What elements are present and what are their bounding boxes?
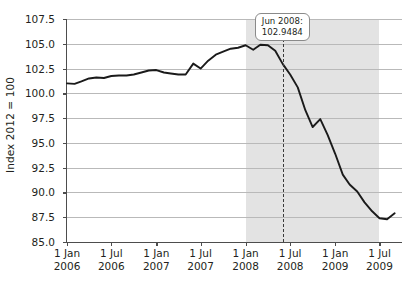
annotation-value: 102.9484 bbox=[262, 27, 303, 38]
x-axis-tick bbox=[67, 242, 68, 246]
annotation-tooltip: Jun 2008: 102.9484 bbox=[255, 13, 310, 41]
chart-container: Index 2012 = 100 107.5105.0102.5100.097.… bbox=[0, 0, 414, 295]
x-axis-tick bbox=[335, 242, 336, 246]
y-axis-tick-label: 85.0 bbox=[9, 237, 55, 247]
annotation-marker-line bbox=[283, 19, 284, 242]
plot-area: 107.5105.0102.5100.097.595.092.590.087.5… bbox=[67, 19, 402, 242]
x-axis-tick bbox=[379, 242, 380, 246]
y-axis-tick-label: 102.5 bbox=[9, 64, 55, 74]
x-axis-tick bbox=[246, 242, 247, 246]
x-axis-tick-label: 1 Jul2009 bbox=[349, 247, 409, 272]
annotation-label: Jun 2008: bbox=[262, 16, 303, 27]
x-axis-tick bbox=[156, 242, 157, 246]
y-axis-tick-label: 100.0 bbox=[9, 88, 55, 98]
y-axis-tick-label: 95.0 bbox=[9, 138, 55, 148]
x-axis-line bbox=[67, 242, 402, 243]
y-axis-tick-label: 105.0 bbox=[9, 39, 55, 49]
y-axis-tick-label: 92.5 bbox=[9, 163, 55, 173]
x-axis-tick bbox=[290, 242, 291, 246]
y-axis-tick-label: 87.5 bbox=[9, 212, 55, 222]
y-axis-tick-label: 97.5 bbox=[9, 113, 55, 123]
y-axis-tick-label: 107.5 bbox=[9, 14, 55, 24]
x-axis-tick bbox=[201, 242, 202, 246]
series-line bbox=[67, 19, 402, 242]
x-axis-tick bbox=[111, 242, 112, 246]
y-axis-tick-label: 90.0 bbox=[9, 187, 55, 197]
